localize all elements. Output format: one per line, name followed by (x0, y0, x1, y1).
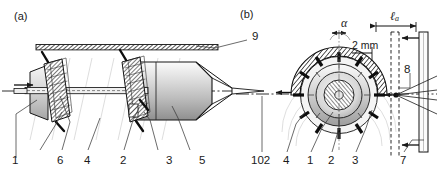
ell-subscript: a (395, 14, 399, 23)
dimension-ell-a-indicator (376, 22, 416, 32)
panel-a-callout-1: 1 (12, 155, 18, 167)
panel-b-callout-3: 3 (352, 155, 358, 167)
panel-a-callout-5: 5 (199, 155, 205, 167)
panel-a-callout-4: 4 (84, 155, 90, 167)
panel-b-callout-2: 2 (328, 155, 334, 167)
figure-drawing (0, 0, 437, 176)
panel-label-a: (a) (14, 11, 27, 22)
element-9-rail (36, 45, 218, 50)
dimension-ell-a-label: ℓa (390, 10, 399, 23)
panel-b-callout-8: 8 (404, 64, 410, 76)
panel-b-callout-4: 4 (283, 155, 289, 167)
panel-b-callout-1: 1 (307, 155, 313, 167)
angle-alpha-indicator (330, 33, 350, 40)
panel-b-drawing (232, 22, 437, 156)
panel-a-callout-6: 6 (57, 155, 63, 167)
panel-a-callout-3: 3 (166, 155, 172, 167)
panel-b-callout-7: 7 (400, 155, 406, 167)
element-3-flange (129, 104, 138, 117)
cone-tip-overlap (232, 88, 264, 94)
leader-line-9 (196, 40, 247, 48)
angle-alpha-label: α (341, 17, 347, 29)
panel-a-callout-2: 2 (120, 155, 126, 167)
dimension-2mm-label: 2 mm (352, 40, 378, 51)
plate-arrows (402, 38, 419, 145)
panel-label-b: (b) (240, 9, 253, 20)
panel-b-callout-102: 102 (251, 155, 270, 167)
panel-a-drawing (2, 40, 247, 158)
panel-a-callout-9: 9 (252, 31, 258, 43)
technical-figure: (a) (b) 9 1 6 4 2 3 5 102 4 1 2 3 7 8 α … (0, 0, 437, 176)
